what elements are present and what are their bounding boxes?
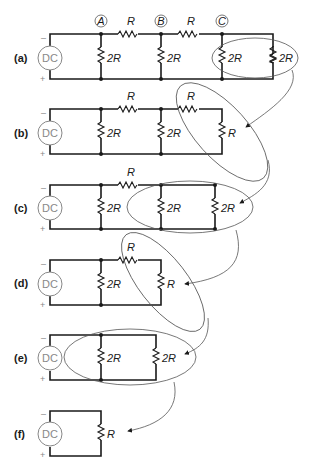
svg-text:(c): (c) [14,202,28,214]
svg-text:2R: 2R [278,52,293,64]
svg-text:R: R [127,166,135,178]
svg-text:–: – [41,33,46,43]
svg-text:DC: DC [42,127,58,139]
panel-e: (e) DC – + 2R 2R [14,329,196,385]
svg-text:C: C [218,15,226,27]
svg-text:R: R [127,241,135,253]
svg-text:2R: 2R [227,52,242,64]
svg-text:+: + [40,74,45,84]
circuit-diagram: (a) DC – + A B C R R 2R 2R 2R 2R (b) [0,0,313,470]
svg-text:2R: 2R [166,127,181,139]
svg-text:DC: DC [42,428,58,440]
svg-text:A: A [96,15,104,27]
svg-text:–: – [41,183,46,193]
svg-text:DC: DC [42,352,58,364]
svg-text:(f): (f) [14,428,25,440]
svg-text:2R: 2R [166,202,181,214]
svg-text:2R: 2R [166,52,181,64]
svg-text:–: – [41,108,46,118]
svg-text:2R: 2R [220,202,235,214]
svg-text:R: R [187,90,195,102]
svg-text:(b): (b) [14,127,28,139]
svg-text:2R: 2R [106,278,121,290]
panel-c: (c) DC – + R 2R 2R 2R [14,166,253,234]
svg-text:DC: DC [42,202,58,214]
svg-text:2R: 2R [106,52,121,64]
svg-text:R: R [228,127,236,139]
svg-text:2R: 2R [106,127,121,139]
svg-text:DC: DC [42,52,58,64]
svg-text:+: + [40,149,45,159]
resistor-BC [178,31,197,37]
svg-text:–: – [41,259,46,269]
svg-text:2R: 2R [106,202,121,214]
svg-text:(d): (d) [14,277,28,289]
svg-text:2R: 2R [161,352,176,364]
svg-text:(e): (e) [14,352,28,364]
panel-a: (a) DC – + A B C R R 2R 2R 2R 2R [14,15,298,84]
svg-text:R: R [127,90,135,102]
svg-text:–: – [41,333,46,343]
svg-text:+: + [40,374,45,384]
panel-f: (f) DC – + R [14,409,115,460]
svg-text:–: – [41,409,46,419]
svg-text:+: + [40,224,45,234]
panel-d: (d) DC – + R 2R R [14,220,219,344]
svg-text:+: + [40,450,45,460]
panel-b: (b) DC – + R R 2R 2R R [14,69,283,196]
svg-text:+: + [40,300,45,310]
svg-text:DC: DC [42,278,58,290]
svg-text:R: R [127,15,135,27]
svg-text:2R: 2R [106,352,121,364]
resistor-AB [118,31,137,37]
panel-label-a: (a) [14,52,28,64]
svg-text:R: R [167,278,175,290]
svg-text:R: R [187,15,195,27]
svg-text:R: R [107,428,115,440]
svg-text:B: B [157,15,164,27]
